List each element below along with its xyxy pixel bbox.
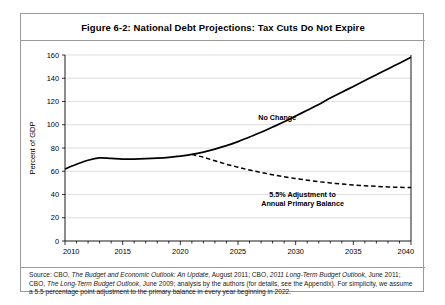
x-axis-tick-label: 2030 (287, 247, 303, 256)
y-axis-tick-label: 20 (51, 213, 59, 222)
x-axis-tick-label: 2035 (345, 247, 361, 256)
y-axis-tick-label: 60 (51, 167, 59, 176)
y-axis-tick-label: 100 (47, 120, 59, 129)
x-axis-tick-label: 2020 (172, 247, 188, 256)
annotation-no-change: No Change (258, 113, 296, 122)
source-line-1: Source: CBO, The Budget and Economic Out… (29, 271, 367, 278)
x-axis-tick-label: 2025 (230, 247, 246, 256)
x-axis-tick-label: 2040 (398, 247, 414, 256)
y-axis-title: Percent of GDP (28, 121, 37, 174)
annotation-adjustment-line2: Annual Primary Balance (261, 199, 344, 208)
y-axis-tick-label: 140 (47, 74, 59, 83)
series-line-0 (65, 57, 411, 169)
y-axis-tick-label: 80 (51, 144, 59, 153)
annotation-adjustment-line1: 5.5% Adjustment to (269, 190, 336, 199)
x-axis-tick-label: 2010 (63, 247, 79, 256)
y-axis-tick-label: 120 (47, 97, 59, 106)
chart-plot-area: 0204060801001201401602010201520202025203… (21, 41, 425, 267)
y-axis-tick-label: 0 (55, 237, 59, 246)
source-divider (21, 267, 425, 268)
debt-projection-chart: 0204060801001201401602010201520202025203… (21, 41, 425, 267)
figure-container: Figure 6-2: National Debt Projections: T… (20, 13, 424, 292)
y-axis-tick-label: 40 (51, 190, 59, 199)
x-axis-tick-label: 2015 (114, 247, 130, 256)
y-axis-tick-label: 160 (47, 51, 59, 60)
figure-title: Figure 6-2: National Debt Projections: T… (21, 22, 425, 33)
source-note: Source: CBO, The Budget and Economic Out… (29, 271, 417, 297)
